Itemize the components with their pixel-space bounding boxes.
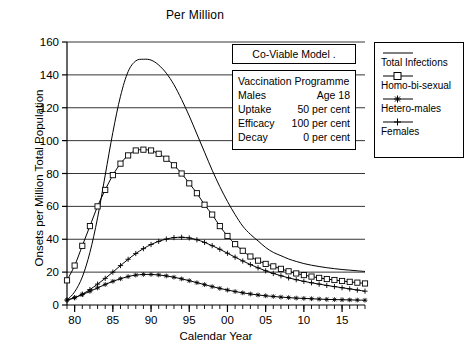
legend-label-homo-bi-sexual: Homo-bi-sexual — [381, 80, 463, 92]
legend-entry-homo-bi-sexual: Homo-bi-sexual — [381, 71, 463, 92]
legend-sample-square-icon — [381, 71, 421, 80]
vaccination-row-males: Males Age 18 — [238, 88, 350, 102]
legend-label-hetero-males: Hetero-males — [381, 103, 463, 115]
vaccination-row-uptake-label: Uptake — [238, 102, 271, 116]
vaccination-row-efficacy-value: 100 per cent — [292, 116, 350, 130]
vaccination-row-males-value: Age 18 — [317, 88, 350, 102]
svg-text:85: 85 — [106, 314, 119, 326]
legend-entry-hetero-males: Hetero-males — [381, 94, 463, 115]
co-viable-model-text: Co-Viable Model . — [233, 45, 355, 63]
svg-text:40: 40 — [46, 233, 59, 245]
legend-sample-line-icon — [381, 48, 421, 57]
vaccination-row-efficacy: Efficacy 100 per cent — [238, 116, 350, 130]
chart-legend: Total Infections Homo-bi-sexual Hetero-m… — [374, 42, 464, 158]
chart-figure: Per Million Onsets per Million Total Pop… — [0, 0, 474, 353]
svg-text:20: 20 — [46, 266, 59, 278]
vaccination-programme-box: Vaccination Programme Males Age 18 Uptak… — [232, 70, 356, 150]
vaccination-row-efficacy-label: Efficacy — [238, 116, 275, 130]
svg-text:80: 80 — [46, 168, 59, 180]
legend-entry-females: Females — [381, 117, 463, 138]
vaccination-heading: Vaccination Programme — [238, 74, 350, 88]
series-females — [64, 235, 367, 303]
x-axis-label: Calendar Year — [67, 330, 365, 342]
y-axis-label: Onsets per Million Total Population — [33, 53, 45, 303]
svg-text:90: 90 — [145, 314, 158, 326]
svg-text:80: 80 — [68, 314, 81, 326]
vaccination-row-males-label: Males — [238, 88, 266, 102]
chart-title: Per Million — [0, 8, 390, 22]
legend-sample-plus-icon — [381, 117, 421, 126]
vaccination-row-decay: Decay 0 per cent — [238, 130, 350, 144]
svg-text:60: 60 — [46, 200, 59, 212]
series-homo-bi-sexual — [64, 147, 367, 286]
legend-sample-asterisk-icon — [381, 94, 421, 103]
vaccination-row-uptake-value: 50 per cent — [297, 102, 350, 116]
svg-text:00: 00 — [221, 314, 234, 326]
svg-text:95: 95 — [183, 314, 196, 326]
svg-text:05: 05 — [259, 314, 272, 326]
co-viable-model-box: Co-Viable Model . — [232, 44, 356, 64]
vaccination-row-decay-label: Decay — [238, 130, 268, 144]
legend-label-females: Females — [381, 126, 463, 138]
svg-text:160: 160 — [40, 36, 59, 48]
vaccination-row-decay-value: 0 per cent — [303, 130, 350, 144]
svg-text:15: 15 — [336, 314, 349, 326]
svg-text:0: 0 — [53, 299, 59, 311]
vaccination-row-uptake: Uptake 50 per cent — [238, 102, 350, 116]
legend-label-total-infections: Total Infections — [381, 57, 463, 69]
legend-entry-total-infections: Total Infections — [381, 48, 463, 69]
svg-text:10: 10 — [297, 314, 310, 326]
